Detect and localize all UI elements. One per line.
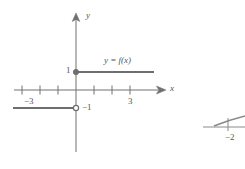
y-axis-label: y [86, 11, 90, 20]
fragment-label-minus-2: −2 [225, 133, 235, 142]
open-dot-marker [73, 105, 78, 110]
axes-group [14, 13, 166, 152]
fragment-curve [214, 116, 245, 126]
function-label: y = f(x) [104, 56, 131, 65]
x-axis-label: x [170, 84, 174, 93]
function-graph-svg [0, 0, 245, 169]
tick-label-3: 3 [128, 97, 133, 106]
adjacent-figure-fragment [203, 116, 245, 131]
tick-label-1: 1 [66, 66, 71, 75]
tick-label-minus-1: −1 [82, 103, 92, 112]
tick-label-minus-3: −3 [24, 97, 34, 106]
figure-container: y x −3 3 1 −1 y = f(x) −2 [0, 0, 245, 169]
closed-dot-marker [73, 69, 78, 74]
